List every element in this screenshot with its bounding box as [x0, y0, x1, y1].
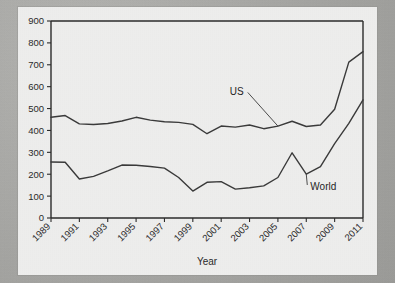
x-tick-label: 2003 [228, 221, 251, 244]
x-tick-label: 2009 [313, 221, 336, 244]
x-tick-label: 2005 [257, 221, 280, 244]
y-tick-label: 500 [28, 103, 44, 114]
x-axis-title: Year [197, 256, 218, 267]
us-leader-line [248, 92, 278, 126]
x-tick-label: 2007 [285, 221, 308, 244]
y-tick-label: 700 [28, 59, 44, 70]
y-tick-label: 200 [28, 169, 44, 180]
y-tick-label: 800 [28, 37, 44, 48]
y-tick-label: 900 [28, 15, 44, 26]
x-tick-label: 1991 [58, 221, 81, 244]
x-tick-label: 1997 [143, 221, 166, 244]
annotation-leaders [248, 92, 308, 185]
x-tick-label: 1995 [115, 221, 138, 244]
series-line-us [51, 52, 363, 134]
line-chart: 0100200300400500600700800900 19891991199… [18, 7, 377, 275]
chart-card: 0100200300400500600700800900 19891991199… [18, 7, 377, 275]
x-axis-tick-labels: 1989199119931995199719992001200320052007… [30, 221, 365, 244]
y-tick-label: 600 [28, 81, 44, 92]
data-series-group [51, 52, 363, 191]
y-axis-tick-labels: 0100200300400500600700800900 [28, 15, 44, 223]
y-tick-label: 400 [28, 125, 44, 136]
world-leader-line [306, 174, 307, 185]
x-tick-label: 1993 [86, 221, 109, 244]
series-label-world: World [310, 181, 336, 192]
x-tick-label: 1989 [30, 221, 53, 244]
series-label-us: US [230, 86, 244, 97]
y-tick-label: 100 [28, 191, 44, 202]
x-tick-label: 2001 [200, 221, 223, 244]
x-tick-label: 2011 [342, 221, 364, 243]
series-line-world [51, 100, 363, 191]
y-tick-label: 300 [28, 147, 44, 158]
x-tick-label: 1999 [172, 221, 195, 244]
